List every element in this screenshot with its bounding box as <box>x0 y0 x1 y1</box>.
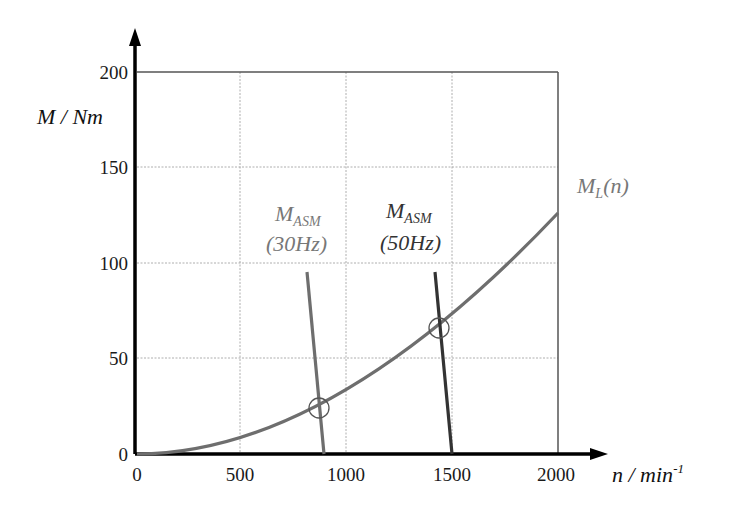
label-load-curve: ML(n) <box>576 173 629 201</box>
y-tick-100: 100 <box>100 253 129 274</box>
series-load-curve <box>137 213 558 454</box>
x-tick-1500: 1500 <box>433 464 471 485</box>
x-tick-500: 500 <box>226 464 255 485</box>
y-tick-200: 200 <box>100 62 129 83</box>
torque-speed-chart: 0 50 100 150 200 0 500 1000 1500 2000 M … <box>0 0 730 511</box>
x-axis-arrow-icon <box>590 448 608 460</box>
label-asm-50hz-freq: (50Hz) <box>380 230 441 255</box>
x-tick-1000: 1000 <box>327 464 365 485</box>
y-axis <box>129 28 141 454</box>
x-axis-label: n / min-1 <box>612 461 684 487</box>
y-axis-label: M / Nm <box>36 104 103 129</box>
label-asm-50hz: MASM <box>385 198 433 226</box>
label-asm-30hz-freq: (30Hz) <box>266 231 327 256</box>
y-tick-0: 0 <box>119 444 129 465</box>
x-axis <box>135 448 608 460</box>
y-tick-50: 50 <box>109 348 128 369</box>
y-tick-labels: 0 50 100 150 200 <box>100 62 129 465</box>
x-tick-0: 0 <box>132 464 142 485</box>
series-asm-30hz <box>307 272 324 454</box>
y-tick-150: 150 <box>100 157 129 178</box>
x-tick-2000: 2000 <box>537 464 575 485</box>
label-asm-30hz: MASM <box>274 201 322 229</box>
grid <box>137 72 558 454</box>
x-tick-labels: 0 500 1000 1500 2000 <box>132 464 575 485</box>
y-axis-arrow-icon <box>129 28 141 46</box>
series-asm-50hz <box>435 272 452 454</box>
